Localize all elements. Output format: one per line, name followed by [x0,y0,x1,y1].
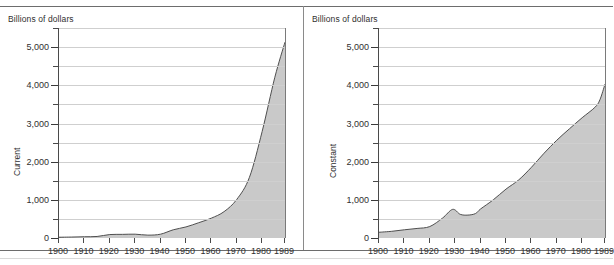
x-tick [134,238,135,243]
gridline [379,124,605,125]
series-label-constant: Constant [328,144,338,178]
x-axis-label: 1970 [546,246,566,256]
y-tick-minor [53,28,58,29]
panel-constant: Billions of dollars Constant 5,0004,0003… [304,0,613,265]
y-axis-label: 4,000 [26,80,49,90]
x-axis-label: 1950 [175,246,195,256]
plot-right-edge-left [285,28,286,238]
x-tick [210,238,211,243]
x-axis-label: 1960 [200,246,220,256]
gridline [59,181,285,182]
y-tick-major [51,85,58,86]
y-tick-minor [373,219,378,220]
x-tick [284,238,285,243]
y-axis-label: 2,000 [346,157,369,167]
x-axis-label: 1920 [419,246,439,256]
y-tick-major [371,238,378,239]
x-axis-label: 1900 [368,246,388,256]
y-tick-major [51,162,58,163]
area-series-constant [379,28,605,238]
y-axis-label: 2,000 [26,157,49,167]
x-tick [261,238,262,243]
x-tick [160,238,161,243]
x-tick [556,238,557,243]
y-tick-major [371,200,378,201]
gridline [379,162,605,163]
y-axis-label: 3,000 [26,119,49,129]
gridline [59,124,285,125]
y-axis-label: 4,000 [346,80,369,90]
gridline [59,143,285,144]
x-tick [454,238,455,243]
gridline [379,85,605,86]
y-axis-label: 1,000 [26,195,49,205]
series-label-current: Current [12,148,22,176]
x-tick [236,238,237,243]
gridline [379,104,605,105]
gridline [379,143,605,144]
y-tick-minor [373,181,378,182]
gridline [379,200,605,201]
gridline [59,28,285,29]
x-axis-label: 1940 [470,246,490,256]
gridline [379,181,605,182]
gridline [379,66,605,67]
y-tick-minor [373,28,378,29]
x-axis-label: 1910 [73,246,93,256]
y-axis-label: 1,000 [346,195,369,205]
y-tick-major [371,162,378,163]
gridline [59,162,285,163]
y-tick-minor [373,104,378,105]
x-tick [581,238,582,243]
y-tick-major [51,47,58,48]
y-tick-major [371,124,378,125]
plot-area-constant: 5,0004,0003,0002,0001,0000 1900191019201… [378,28,605,238]
gridline [379,47,605,48]
y-axis-label: 0 [44,233,49,243]
y-axis-label: 5,000 [26,42,49,52]
y-tick-minor [53,66,58,67]
x-axis-label: 1980 [251,246,271,256]
gridline [59,85,285,86]
y-tick-minor [373,143,378,144]
panel-current: Billions of dollars Current 5,0004,0003,… [0,0,303,265]
x-tick [378,238,379,243]
x-tick [505,238,506,243]
x-axis-label: 1940 [150,246,170,256]
x-axis-label: 1930 [124,246,144,256]
unit-label-right: Billions of dollars [312,14,378,24]
y-tick-major [371,47,378,48]
x-axis-label: 1950 [495,246,515,256]
gridline [59,200,285,201]
area-series-current [59,28,285,238]
x-tick [58,238,59,243]
area-fill [59,42,285,238]
y-tick-major [51,124,58,125]
x-tick [403,238,404,243]
gridline [59,219,285,220]
y-axis-label: 5,000 [346,42,369,52]
gridline [59,47,285,48]
x-tick [604,238,605,243]
gridline [379,219,605,220]
x-tick [83,238,84,243]
x-axis-label: 1970 [226,246,246,256]
x-tick [480,238,481,243]
y-tick-minor [53,219,58,220]
x-axis-label: 1920 [99,246,119,256]
gridline [379,28,605,29]
x-axis-label: 1989 [594,246,614,256]
x-tick [185,238,186,243]
x-axis-label: 1960 [520,246,540,256]
y-tick-minor [373,66,378,67]
plot-area-current: 5,0004,0003,0002,0001,0000 1900191019201… [58,28,285,238]
x-axis-label: 1900 [48,246,68,256]
y-tick-major [51,238,58,239]
y-axis-label: 3,000 [346,119,369,129]
x-axis-label: 1980 [571,246,591,256]
x-tick [429,238,430,243]
plot-right-edge-right [605,28,606,238]
x-tick [530,238,531,243]
y-axis-label: 0 [364,233,369,243]
